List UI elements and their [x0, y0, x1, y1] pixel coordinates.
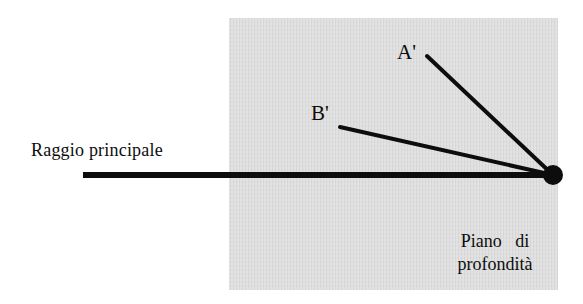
- ray-to-a-line: [427, 56, 553, 175]
- vertex-point: [543, 165, 563, 185]
- depth-plane-label: Piano di profondità: [445, 230, 545, 275]
- ray-to-b-line: [340, 127, 553, 175]
- depth-plane-label-line-2: profondità: [445, 253, 545, 276]
- perspective-diagram: Raggio principale A' B' Piano di profond…: [0, 0, 583, 304]
- depth-plane-label-line-1: Piano di: [445, 230, 545, 253]
- principal-ray-label: Raggio principale: [31, 141, 163, 159]
- point-b-label: B': [311, 103, 329, 124]
- point-a-label: A': [397, 42, 416, 63]
